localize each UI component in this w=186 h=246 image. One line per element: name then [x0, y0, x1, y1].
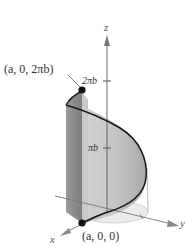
helix-diagram: z y x 2πb πb (a, 0, 2πb) (a, 0, 0)	[0, 0, 186, 246]
diagram-canvas	[0, 0, 186, 246]
bottom-point-marker	[78, 219, 85, 226]
leader-line	[68, 75, 80, 87]
z-axis-label: z	[104, 22, 108, 33]
top-point-marker	[78, 86, 85, 93]
tick-label-pib: πb	[88, 143, 98, 153]
x-axis-label: x	[50, 234, 55, 245]
y-axis-label: y	[180, 218, 185, 229]
bottom-point-label: (a, 0, 0)	[82, 230, 119, 242]
top-point-label: (a, 0, 2πb)	[4, 63, 53, 75]
tick-label-2pib: 2πb	[82, 76, 97, 86]
